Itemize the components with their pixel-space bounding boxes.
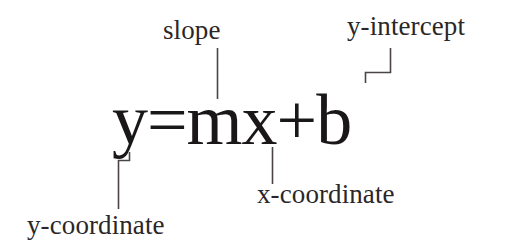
leader-lines-layer <box>0 0 522 251</box>
equation-annotation-diagram: slope y-intercept x-coordinate y-coordin… <box>0 0 522 251</box>
leader-line-y-intercept <box>366 48 391 83</box>
leader-line-y-coordinate <box>119 152 130 209</box>
